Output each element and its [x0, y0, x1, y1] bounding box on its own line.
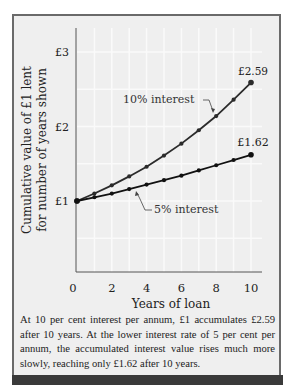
data-point [145, 183, 149, 187]
data-point [214, 114, 218, 118]
data-point [197, 128, 201, 132]
y-axis-label-line1: Cumulative value of £1 lent [20, 66, 34, 234]
annotation-10pct: 10% interest [123, 93, 195, 106]
end-label-10pct: £2.59 [238, 65, 268, 77]
annotation-5pct: 5% interest [154, 203, 219, 216]
data-point [214, 163, 218, 167]
x-tick-label: 8 [213, 281, 220, 295]
annotation-10pct-leader [203, 100, 213, 111]
data-point [92, 195, 96, 199]
data-point [248, 152, 254, 158]
data-point [162, 178, 166, 182]
data-point [179, 142, 183, 146]
y-tick-label: £2 [55, 121, 69, 134]
data-point [110, 183, 114, 187]
data-point [197, 168, 201, 172]
y-axis-label-line2: for number of years shown [35, 68, 49, 232]
data-point [248, 80, 254, 86]
data-point [74, 198, 80, 204]
y-tick-label: £3 [55, 46, 69, 59]
data-point [232, 158, 236, 162]
x-tick-label: 2 [108, 281, 115, 295]
x-tick-label: 4 [143, 281, 150, 295]
y-tick-label: £1 [55, 195, 69, 208]
x-axis-label: Years of loan [131, 297, 211, 311]
data-point [232, 98, 236, 102]
x-tick-label: 10 [244, 281, 259, 295]
data-point [145, 165, 149, 169]
data-point [179, 174, 183, 178]
x-tick-label: 6 [178, 281, 185, 295]
data-point [92, 191, 96, 195]
data-point [110, 191, 114, 195]
x-tick-label: 0 [69, 281, 76, 295]
data-point [127, 187, 131, 191]
figure-caption: At 10 per cent interest per annum, £1 ac… [20, 313, 275, 371]
data-point [127, 174, 131, 178]
end-label-5pct: £1.62 [237, 136, 269, 149]
data-point [162, 153, 166, 157]
arrowhead-icon [211, 108, 215, 113]
